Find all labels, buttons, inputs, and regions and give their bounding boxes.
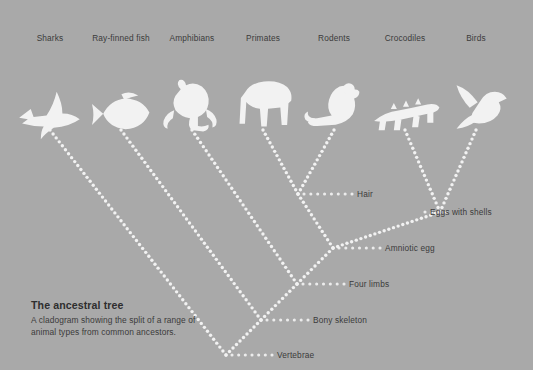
taxon-label-primates: Primates xyxy=(246,33,280,43)
taxon-label-sharks: Sharks xyxy=(37,33,64,43)
taxon-label-amphibians: Amphibians xyxy=(170,33,215,43)
caption-title: The ancestral tree xyxy=(31,299,196,311)
node-label-amniotic-egg: Amniotic egg xyxy=(385,243,435,253)
silhouette-sharks xyxy=(19,92,79,140)
silhouette-primates xyxy=(240,81,292,126)
caption-body: A cladogram showing the split of a range… xyxy=(31,315,196,339)
node-label-hair: Hair xyxy=(357,189,373,199)
silhouette-birds xyxy=(457,85,507,129)
silhouette-ray-finned-fish xyxy=(92,92,149,129)
cladogram-canvas: Sharks Ray-finned fish Amphibians Primat… xyxy=(0,0,533,370)
node-label-bony-skeleton: Bony skeleton xyxy=(313,315,367,325)
node-label-vertebrae: Vertebrae xyxy=(277,350,314,360)
taxon-label-ray-finned-fish: Ray-finned fish xyxy=(92,33,150,43)
silhouette-rodents xyxy=(304,83,359,126)
silhouette-amphibians xyxy=(163,80,216,132)
taxon-label-birds: Birds xyxy=(466,33,486,43)
taxon-label-rodents: Rodents xyxy=(318,33,350,43)
silhouette-crocodiles xyxy=(374,98,439,130)
caption-block: The ancestral tree A cladogram showing t… xyxy=(31,299,196,339)
node-label-four-limbs: Four limbs xyxy=(349,279,389,289)
taxon-label-crocodiles: Crocodiles xyxy=(385,33,426,43)
leader-lines xyxy=(230,192,447,356)
node-label-eggs-with-shells: Eggs with shells xyxy=(430,207,492,217)
